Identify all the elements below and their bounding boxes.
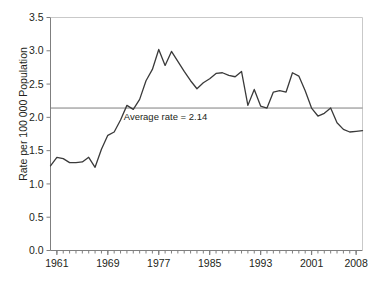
x-axis-tick-label: 2008 (344, 257, 368, 269)
x-axis-tick-label: 1985 (198, 257, 222, 269)
x-axis-tick-label: 1969 (96, 257, 120, 269)
y-axis-tick-label: 2.0 (29, 111, 44, 123)
line-chart-svg: 0.00.51.01.52.02.53.03.51961196919771985… (0, 0, 374, 283)
axis-spines (51, 18, 363, 251)
y-axis-tick-label: 0.0 (29, 244, 44, 256)
x-axis-tick-label: 1993 (249, 257, 273, 269)
y-axis-tick-label: 3.0 (29, 44, 44, 56)
y-axis-tick-label: 0.5 (29, 211, 44, 223)
x-axis-tick-label: 1961 (45, 257, 69, 269)
y-axis-tick-label: 2.5 (29, 78, 44, 90)
plot-area-wrapper: 0.00.51.01.52.02.53.03.51961196919771985… (0, 0, 374, 283)
y-axis-tick-label: 1.0 (29, 178, 44, 190)
y-axis-tick-label: 3.5 (29, 11, 44, 23)
average-rate-label: Average rate = 2.14 (124, 111, 208, 122)
x-axis-tick-label: 1977 (147, 257, 171, 269)
y-axis-tick-label: 1.5 (29, 144, 44, 156)
chart-figure: Rate per 100 000 Population 0.00.51.01.5… (0, 0, 374, 283)
axis-frame-light (51, 18, 363, 251)
x-axis-tick-label: 2001 (300, 257, 324, 269)
